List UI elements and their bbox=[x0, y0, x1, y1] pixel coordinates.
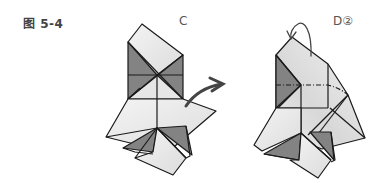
figure-c bbox=[106, 24, 216, 175]
figure-d bbox=[254, 37, 365, 178]
origami-diagram bbox=[0, 0, 389, 183]
